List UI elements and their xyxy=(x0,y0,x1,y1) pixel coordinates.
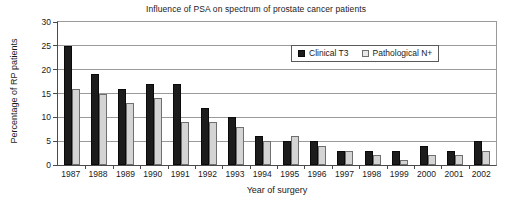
x-axis-tick xyxy=(387,165,388,169)
bar-pathological-n-plus xyxy=(373,155,381,165)
x-axis-tick-label: 1988 xyxy=(89,169,108,179)
bar-group xyxy=(414,22,441,165)
x-axis-tick xyxy=(140,165,141,169)
x-axis-tick-label: 1990 xyxy=(143,169,162,179)
bar-clinical-t3 xyxy=(255,136,263,165)
bar-pathological-n-plus xyxy=(263,141,271,165)
bar-clinical-t3 xyxy=(447,151,455,165)
bar-clinical-t3 xyxy=(201,108,209,165)
bar-clinical-t3 xyxy=(474,141,482,165)
bar-pathological-n-plus xyxy=(126,103,134,165)
y-axis-tick-label: 25 xyxy=(29,41,51,51)
x-axis-tick-label: 1994 xyxy=(253,169,272,179)
bar-clinical-t3 xyxy=(310,141,318,165)
bar-pathological-n-plus xyxy=(345,151,353,165)
bar-clinical-t3 xyxy=(392,151,400,165)
bar-pathological-n-plus xyxy=(400,160,408,165)
bar-pathological-n-plus xyxy=(236,127,244,165)
bar-group xyxy=(58,22,85,165)
bar-group xyxy=(140,22,167,165)
y-axis-tick-label: 20 xyxy=(29,65,51,75)
y-axis-tick-label: 30 xyxy=(29,17,51,27)
bar-clinical-t3 xyxy=(228,117,236,165)
bar-pathological-n-plus xyxy=(181,122,189,165)
bar-group xyxy=(195,22,222,165)
x-axis-tick xyxy=(332,165,333,169)
x-axis-title: Year of surgery xyxy=(57,185,497,195)
bar-pathological-n-plus xyxy=(209,122,217,165)
bar-group xyxy=(359,22,386,165)
legend-label: Pathological N+ xyxy=(373,48,433,58)
x-axis-tick xyxy=(469,165,470,169)
plot-area: 051015202530 xyxy=(57,21,497,166)
bar-pathological-n-plus xyxy=(99,94,107,166)
y-axis-tick-label: 0 xyxy=(29,160,51,170)
bar-group xyxy=(168,22,195,165)
bar-pathological-n-plus xyxy=(428,155,436,165)
x-axis-tick-label: 2002 xyxy=(472,169,491,179)
bar-group xyxy=(85,22,112,165)
x-axis-tick xyxy=(168,165,169,169)
bar-pathological-n-plus xyxy=(455,155,463,165)
y-axis-tick-label: 5 xyxy=(29,136,51,146)
y-axis-title: Percentage of RP patients xyxy=(9,11,19,171)
bar-pathological-n-plus xyxy=(318,146,326,165)
bars-layer xyxy=(58,22,496,165)
legend-item-clinical-t3: Clinical T3 xyxy=(298,48,349,58)
x-axis-tick-label: 2000 xyxy=(417,169,436,179)
x-axis-tick-label: 1995 xyxy=(280,169,299,179)
bar-chart: Influence of PSA on spectrum of prostate… xyxy=(0,0,512,208)
legend-label: Clinical T3 xyxy=(309,48,349,58)
bar-clinical-t3 xyxy=(146,84,154,165)
bar-group xyxy=(222,22,249,165)
x-axis-tick-label: 1993 xyxy=(225,169,244,179)
x-axis-tick xyxy=(85,165,86,169)
bar-group xyxy=(277,22,304,165)
x-axis-tick xyxy=(277,165,278,169)
x-axis-tick-label: 1987 xyxy=(61,169,80,179)
bar-clinical-t3 xyxy=(173,84,181,165)
y-axis-tick-label: 15 xyxy=(29,89,51,99)
x-axis-tick-label: 1997 xyxy=(335,169,354,179)
chart-legend: Clinical T3 Pathological N+ xyxy=(291,45,439,62)
bar-group xyxy=(304,22,331,165)
bar-pathological-n-plus xyxy=(291,136,299,165)
x-axis-tick-label: 1999 xyxy=(390,169,409,179)
bar-group xyxy=(250,22,277,165)
bar-group xyxy=(387,22,414,165)
bar-pathological-n-plus xyxy=(154,98,162,165)
x-axis-tick-label: 1989 xyxy=(116,169,135,179)
bar-group xyxy=(332,22,359,165)
x-axis-tick-label: 1991 xyxy=(171,169,190,179)
x-axis-tick xyxy=(222,165,223,169)
bar-clinical-t3 xyxy=(365,151,373,165)
bar-group xyxy=(113,22,140,165)
bar-clinical-t3 xyxy=(283,141,291,165)
bar-clinical-t3 xyxy=(118,89,126,165)
x-axis-tick xyxy=(195,165,196,169)
bar-group xyxy=(469,22,496,165)
x-axis-tick xyxy=(359,165,360,169)
bar-pathological-n-plus xyxy=(482,151,490,165)
x-axis-tick xyxy=(113,165,114,169)
y-axis-tick-label: 10 xyxy=(29,112,51,122)
x-axis-tick-label: 1996 xyxy=(308,169,327,179)
bar-clinical-t3 xyxy=(91,74,99,165)
bar-pathological-n-plus xyxy=(72,89,80,165)
x-axis-tick-label: 2001 xyxy=(444,169,463,179)
bar-clinical-t3 xyxy=(420,146,428,165)
legend-item-pathological-n-plus: Pathological N+ xyxy=(362,48,433,58)
filled-black-square-icon xyxy=(298,50,305,57)
x-axis-tick xyxy=(304,165,305,169)
bar-group xyxy=(441,22,468,165)
x-axis-tick xyxy=(414,165,415,169)
x-axis-tick xyxy=(441,165,442,169)
x-axis-tick-label: 1992 xyxy=(198,169,217,179)
x-axis-tick xyxy=(250,165,251,169)
bar-clinical-t3 xyxy=(64,46,72,165)
chart-title: Influence of PSA on spectrum of prostate… xyxy=(0,4,512,14)
bar-clinical-t3 xyxy=(337,151,345,165)
outlined-light-square-icon xyxy=(362,50,369,57)
x-axis-tick-label: 1998 xyxy=(362,169,381,179)
